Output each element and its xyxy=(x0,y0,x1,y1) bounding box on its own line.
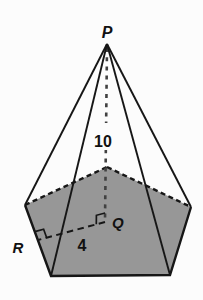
pyramid-diagram: P 10 Q 4 R xyxy=(0,0,203,300)
apothem-label: 4 xyxy=(78,237,87,254)
geometry-figure: P 10 Q 4 R xyxy=(0,0,203,300)
center-label: Q xyxy=(112,214,124,231)
apex-label: P xyxy=(102,24,113,41)
height-label: 10 xyxy=(94,133,112,150)
edge-point-label: R xyxy=(13,239,24,256)
